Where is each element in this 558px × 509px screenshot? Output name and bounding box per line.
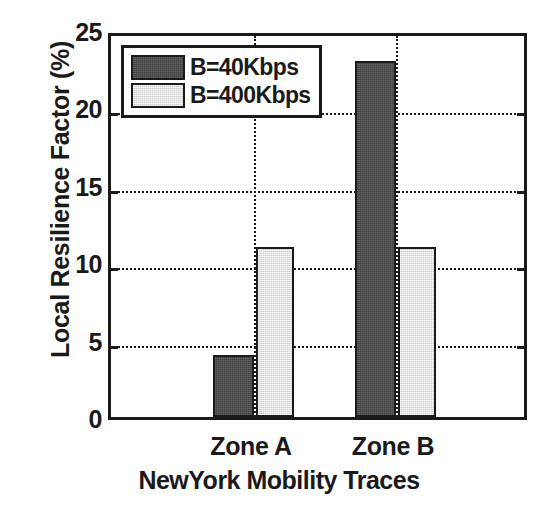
dark-gray-swatch-icon (131, 55, 185, 80)
y-tick-mark-right-5 (517, 346, 524, 349)
y-tick-mark-right-20 (517, 113, 524, 116)
plot-area: B=40Kbps B=400Kbps (108, 33, 527, 420)
bar-zone-a-b40kbps (213, 355, 254, 417)
legend: B=40Kbps B=400Kbps (121, 45, 322, 118)
y-tick-label-15: 15 (60, 175, 102, 200)
x-tick-label-zone-a: Zone A (210, 432, 291, 461)
bar-zone-b-b40kbps (355, 61, 396, 417)
y-tick-label-10: 10 (60, 252, 102, 277)
y-tick-mark-right-15 (517, 191, 524, 194)
y-tick-mark-right-10 (517, 268, 524, 271)
bar-zone-b-b400kbps (398, 247, 436, 417)
bar-chart-figure: Local Resilience Factor (%) 25 20 15 10 … (0, 0, 558, 509)
y-tick-label-25: 25 (60, 20, 102, 45)
y-tick-label-5: 5 (60, 330, 102, 355)
y-tick-mark-left-20 (111, 113, 118, 116)
gridline-10 (111, 268, 524, 270)
gridline-15 (111, 191, 524, 193)
legend-label-b400kbps: B=400Kbps (190, 84, 311, 107)
y-tick-mark-left-10 (111, 268, 118, 271)
legend-entry-b40kbps: B=40Kbps (131, 53, 311, 81)
x-axis-title: NewYork Mobility Traces (0, 466, 558, 495)
gridline-5 (111, 346, 524, 348)
y-tick-mark-left-15 (111, 191, 118, 194)
y-axis-tick-labels: 25 20 15 10 5 0 (52, 0, 102, 509)
y-tick-label-20: 20 (60, 97, 102, 122)
y-tick-label-0: 0 (60, 407, 102, 432)
x-tick-label-zone-b: Zone B (352, 432, 434, 461)
legend-entry-b400kbps: B=400Kbps (131, 81, 311, 109)
legend-label-b40kbps: B=40Kbps (190, 56, 298, 79)
bar-zone-a-b400kbps (256, 247, 294, 417)
light-gray-swatch-icon (131, 83, 185, 108)
y-tick-mark-left-5 (111, 346, 118, 349)
